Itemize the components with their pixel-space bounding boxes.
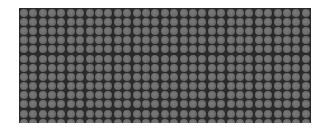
dot (283, 100, 291, 108)
grid-cell (47, 8, 56, 17)
grid-cell (170, 109, 179, 118)
grid-cell (179, 54, 188, 63)
dot (302, 64, 310, 72)
grid-cell (179, 17, 188, 26)
grid-cell (47, 91, 56, 100)
dot (227, 100, 235, 108)
grid-cell (85, 118, 94, 123)
dot (123, 82, 131, 90)
dot (142, 9, 150, 17)
dot (142, 73, 150, 81)
dot (161, 18, 169, 26)
grid-cell (141, 82, 150, 91)
grid-cell (104, 54, 113, 63)
grid-cell (94, 26, 103, 35)
dot (123, 73, 131, 81)
grid-cell (301, 109, 310, 118)
dot (133, 73, 141, 81)
grid-cell (264, 17, 273, 26)
grid-cell (198, 118, 207, 123)
dot (142, 55, 150, 63)
grid-cell (207, 54, 216, 63)
dot (57, 110, 65, 118)
dot (264, 91, 272, 99)
dot (76, 110, 84, 118)
dot (67, 119, 75, 123)
dot (208, 91, 216, 99)
dot (255, 27, 263, 35)
grid-cell (235, 36, 244, 45)
grid-cell (254, 118, 263, 123)
grid-cell (207, 36, 216, 45)
grid-cell (179, 45, 188, 54)
dot (264, 100, 272, 108)
grid-cell (66, 17, 75, 26)
dot (67, 55, 75, 63)
dot (161, 110, 169, 118)
dot (86, 27, 94, 35)
grid-cell (273, 118, 282, 123)
grid-cell (113, 45, 122, 54)
grid-cell (141, 36, 150, 45)
grid-cell (66, 118, 75, 123)
dot (114, 27, 122, 35)
grid-cell (282, 26, 291, 35)
dot (39, 18, 47, 26)
dot (29, 82, 37, 90)
grid-cell (245, 109, 254, 118)
dot (180, 55, 188, 63)
grid-cell (104, 26, 113, 35)
grid-cell (85, 54, 94, 63)
grid-cell (273, 91, 282, 100)
grid-cell (217, 118, 226, 123)
grid-cell (132, 26, 141, 35)
dot (20, 91, 28, 99)
dot (20, 27, 28, 35)
dot (274, 64, 282, 72)
dot (208, 9, 216, 17)
dot (170, 100, 178, 108)
dot (189, 119, 197, 123)
dot (86, 18, 94, 26)
grid-cell (188, 54, 197, 63)
dot (180, 27, 188, 35)
dot (133, 36, 141, 44)
dot (302, 119, 310, 123)
grid-cell (301, 100, 310, 109)
grid-cell (245, 72, 254, 81)
grid-cell (85, 91, 94, 100)
grid-cell (226, 8, 235, 17)
grid-cell (38, 100, 47, 109)
dot (133, 27, 141, 35)
grid-cell (122, 82, 131, 91)
dot (67, 9, 75, 17)
dot (161, 82, 169, 90)
grid-cell (141, 45, 150, 54)
grid-cell (151, 26, 160, 35)
dot (180, 36, 188, 44)
dot (48, 73, 56, 81)
dot (161, 73, 169, 81)
grid-cell (235, 72, 244, 81)
dot (198, 110, 206, 118)
grid-cell (282, 63, 291, 72)
dot (245, 9, 253, 17)
dot (292, 55, 300, 63)
dot (302, 9, 310, 17)
grid-cell (254, 45, 263, 54)
grid-cell (94, 36, 103, 45)
dot (161, 119, 169, 123)
grid-cell (207, 72, 216, 81)
dot (57, 91, 65, 99)
dot (227, 55, 235, 63)
dot (142, 91, 150, 99)
grid-cell (57, 17, 66, 26)
dot (236, 82, 244, 90)
grid-cell (273, 100, 282, 109)
grid-cell (75, 82, 84, 91)
dot (236, 9, 244, 17)
dot (180, 45, 188, 53)
dot (208, 82, 216, 90)
dot (302, 18, 310, 26)
dot (264, 73, 272, 81)
